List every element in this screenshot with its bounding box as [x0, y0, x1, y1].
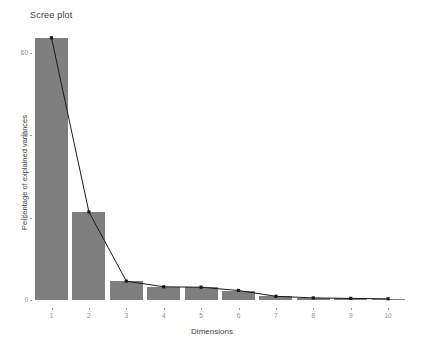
y-axis-tick-mark [30, 300, 32, 301]
y-axis-tick-label: 0 [16, 296, 28, 303]
y-axis-title: Percentage of explained variances [20, 73, 29, 273]
x-axis-tick-mark [388, 308, 389, 310]
bar [110, 281, 143, 300]
x-axis-tick-label: 1 [37, 312, 67, 319]
x-axis-tick-label: 9 [336, 312, 366, 319]
x-axis-tick-mark [313, 308, 314, 310]
x-axis-tick-label: 8 [298, 312, 328, 319]
x-axis-tick-label: 4 [149, 312, 179, 319]
y-axis-tick-label: 40 [16, 131, 28, 138]
x-axis-tick-mark [201, 308, 202, 310]
y-axis-tick-mark [30, 53, 32, 54]
x-axis-tick-mark [52, 308, 53, 310]
x-axis-tick-mark [239, 308, 240, 310]
x-axis-tick-label: 10 [373, 312, 403, 319]
x-axis-tick-mark [276, 308, 277, 310]
bar [147, 287, 180, 300]
page-title: Scree plot [30, 10, 73, 20]
x-axis-tick-mark [89, 308, 90, 310]
y-axis-tick-label: 60 [16, 49, 28, 56]
x-axis-title: Dimensions [0, 327, 424, 336]
y-axis-tick-label: 20 [16, 214, 28, 221]
bar [222, 291, 255, 300]
scree-plot-figure: Scree plot Percentage of explained varia… [0, 0, 424, 346]
x-axis-tick-mark [164, 308, 165, 310]
x-axis-tick-mark [126, 308, 127, 310]
x-axis-tick-label: 7 [261, 312, 291, 319]
x-axis-tick-mark [351, 308, 352, 310]
x-axis-tick-label: 2 [74, 312, 104, 319]
x-axis-tick-label: 6 [224, 312, 254, 319]
y-axis-tick-mark [30, 218, 32, 219]
bar [259, 296, 292, 300]
x-axis-tick-label: 3 [111, 312, 141, 319]
x-axis-tick-label: 5 [186, 312, 216, 319]
y-axis-tick-mark [30, 135, 32, 136]
bar [72, 212, 105, 300]
bar [372, 299, 405, 300]
bar [297, 298, 330, 300]
bar [334, 298, 367, 300]
bar [185, 287, 218, 300]
bar [35, 38, 68, 300]
